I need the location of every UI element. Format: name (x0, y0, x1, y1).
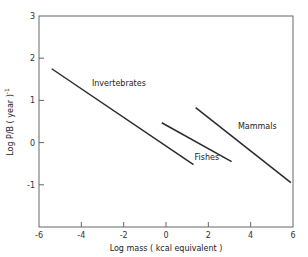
x-tick-label: -2 (120, 231, 128, 240)
series-label-invertebrates: Invertebrates (92, 79, 146, 88)
x-axis-ticks: -6-4-20246 (35, 222, 296, 240)
y-tick-label: 0 (30, 139, 35, 148)
y-axis-title-main: Log P/B ( year ) (6, 94, 15, 156)
y-tick-label: 1 (30, 96, 35, 105)
series-label-mammals: Mammals (238, 122, 277, 131)
x-tick-label: 2 (206, 231, 211, 240)
series-line-mammals (196, 108, 291, 183)
x-axis-title: Log mass ( kcal equivalent ) (110, 244, 223, 253)
y-tick-label: 2 (30, 54, 35, 63)
y-tick-label: -1 (27, 181, 35, 190)
x-tick-label: 0 (163, 231, 168, 240)
y-axis-ticks: -10123 (27, 12, 44, 190)
x-tick-label: 4 (248, 231, 253, 240)
y-tick-label: 3 (30, 12, 35, 21)
x-tick-label: 6 (290, 231, 295, 240)
x-tick-label: -6 (35, 231, 43, 240)
series-label-fishes: Fishes (195, 153, 220, 162)
y-axis-title: Log P/B ( year )-1 (3, 88, 15, 156)
chart: -6-4-20246 -10123 InvertebratesFishesMam… (0, 0, 308, 257)
x-tick-label: -4 (77, 231, 85, 240)
y-axis-title-superscript: -1 (3, 88, 10, 94)
